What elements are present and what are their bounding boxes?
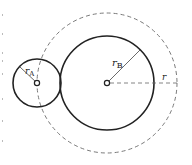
center-a-marker xyxy=(34,80,39,85)
label-r-b: rB xyxy=(112,57,123,70)
label-r: r xyxy=(162,72,167,82)
edge-artifacts xyxy=(2,14,3,142)
tangent-circles-diagram: rA rB r xyxy=(0,0,192,165)
center-b-marker xyxy=(104,80,109,85)
label-r-a: rA xyxy=(25,66,35,78)
